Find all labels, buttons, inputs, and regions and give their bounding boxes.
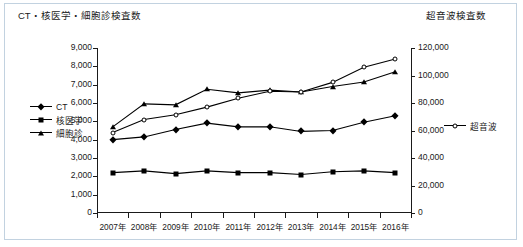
right-tick-label: 120,000 [418, 42, 449, 52]
right-tick-label: 20,000 [418, 180, 444, 190]
data-point [176, 174, 181, 179]
data-point [144, 137, 149, 142]
data-point [144, 171, 149, 176]
legend-label: 核医学 [56, 114, 83, 126]
data-point [176, 105, 182, 110]
x-tick-mark [411, 213, 412, 218]
data-point [364, 122, 369, 127]
left-tick-mark [93, 140, 97, 141]
left-tick-mark [93, 85, 97, 86]
data-point [238, 173, 243, 178]
legend-marker-icon [30, 127, 52, 139]
right-tick-mark [411, 131, 415, 132]
x-tick-mark [285, 213, 286, 218]
x-tick-mark [128, 213, 129, 218]
data-point [207, 89, 213, 94]
data-point [176, 115, 181, 120]
data-point [144, 104, 150, 109]
data-point [113, 133, 118, 138]
data-point [176, 130, 181, 135]
left-tick-mark [93, 158, 97, 159]
data-point [207, 107, 212, 112]
x-tick-label: 2016年 [373, 220, 417, 232]
left-tick-mark [93, 121, 97, 122]
data-point [301, 92, 306, 97]
data-point [113, 140, 118, 145]
right-tick-label: 100,000 [418, 70, 449, 80]
data-point [395, 116, 400, 121]
x-tick-mark [380, 213, 381, 218]
legend-right-item: 超音波 [444, 119, 497, 132]
legend-left-item: CT [30, 100, 83, 113]
left-tick-label: 8,000 [48, 60, 92, 70]
left-tick-mark [93, 195, 97, 196]
right-tick-mark [411, 158, 415, 159]
x-tick-mark [223, 213, 224, 218]
left-tick-label: 9,000 [48, 42, 92, 52]
legend-left: CT核医学細胞診 [30, 100, 83, 139]
data-point [270, 91, 275, 96]
data-point [238, 98, 243, 103]
data-point [364, 67, 369, 72]
legend-marker-icon [444, 120, 466, 132]
right-tick-mark [411, 76, 415, 77]
chart-figure: CT・核医学・細胞診検査数 超音波検査数 01,0002,0003,0004,0… [0, 0, 523, 247]
legend-right: 超音波 [444, 119, 497, 132]
data-point [364, 82, 370, 87]
data-point [144, 120, 149, 125]
legend-left-item: 核医学 [30, 113, 83, 126]
left-tick-mark [93, 103, 97, 104]
legend-label: CT [56, 102, 67, 112]
x-tick-mark [254, 213, 255, 218]
right-tick-mark [411, 186, 415, 187]
x-tick-mark [160, 213, 161, 218]
data-point [333, 131, 338, 136]
data-point [395, 173, 400, 178]
data-point [364, 171, 369, 176]
data-point [333, 82, 338, 87]
legend-label: 細胞診 [56, 127, 83, 139]
right-tick-mark [411, 103, 415, 104]
plot-area [97, 48, 411, 213]
data-point [333, 172, 338, 177]
data-point [301, 175, 306, 180]
left-tick-label: 0 [48, 207, 92, 217]
left-tick-label: 7,000 [48, 79, 92, 89]
right-tick-label: 40,000 [418, 152, 444, 162]
left-axis-title: CT・核医学・細胞診検査数 [18, 10, 136, 22]
data-point [238, 127, 243, 132]
left-tick-mark [93, 176, 97, 177]
x-tick-mark [191, 213, 192, 218]
data-point [207, 123, 212, 128]
x-tick-mark [317, 213, 318, 218]
right-tick-label: 0 [418, 207, 423, 217]
data-point [395, 59, 400, 64]
data-point [207, 171, 212, 176]
data-point [113, 173, 118, 178]
data-point [270, 173, 275, 178]
data-point [395, 72, 401, 77]
right-axis-title: 超音波検査数 [424, 10, 488, 22]
data-point [301, 131, 306, 136]
right-tick-label: 60,000 [418, 125, 444, 135]
right-tick-label: 80,000 [418, 97, 444, 107]
left-tick-mark [93, 66, 97, 67]
right-tick-mark [411, 48, 415, 49]
x-tick-mark [97, 213, 98, 218]
left-tick-mark [93, 48, 97, 49]
left-tick-label: 1,000 [48, 189, 92, 199]
left-tick-label: 2,000 [48, 170, 92, 180]
left-tick-label: 3,000 [48, 152, 92, 162]
legend-left-item: 細胞診 [30, 126, 83, 139]
legend-marker-icon [30, 114, 52, 126]
legend-label: 超音波 [470, 120, 497, 132]
data-point [270, 127, 275, 132]
x-tick-mark [348, 213, 349, 218]
legend-marker-icon [30, 101, 52, 113]
